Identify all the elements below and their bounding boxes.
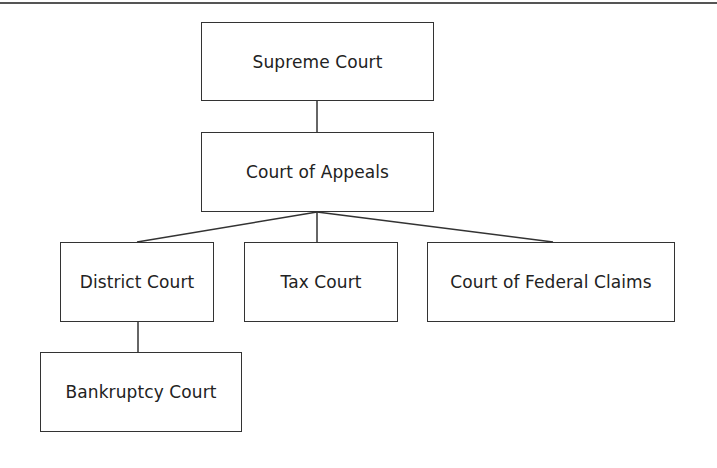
node-supreme-court: Supreme Court <box>201 22 434 101</box>
edge-appeals-federal <box>317 212 553 242</box>
node-label: Court of Federal Claims <box>450 272 651 292</box>
node-tax-court: Tax Court <box>244 242 398 322</box>
edge-appeals-district <box>137 212 317 242</box>
node-bankruptcy-court: Bankruptcy Court <box>40 352 242 432</box>
node-court-of-federal-claims: Court of Federal Claims <box>427 242 675 322</box>
node-label: Court of Appeals <box>246 162 389 182</box>
node-label: Bankruptcy Court <box>65 382 216 402</box>
node-label: Tax Court <box>280 272 361 292</box>
node-district-court: District Court <box>60 242 214 322</box>
node-label: Supreme Court <box>253 52 383 72</box>
node-court-of-appeals: Court of Appeals <box>201 132 434 212</box>
node-label: District Court <box>80 272 195 292</box>
